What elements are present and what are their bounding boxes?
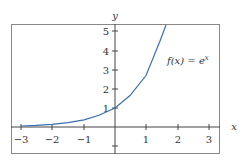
y-tick-label: 3 — [103, 65, 109, 76]
x-axis-label: x — [231, 121, 237, 132]
x-tick-label: −2 — [45, 134, 60, 145]
exponential-chart: −3 −2 −1 1 2 3 1 2 3 4 5 y x f(x) = ex — [0, 0, 241, 160]
function-label: f(x) = ex — [166, 54, 209, 66]
y-tick-label: 4 — [103, 46, 109, 57]
x-tick-label: 2 — [175, 134, 181, 145]
x-tick-label: −3 — [14, 134, 29, 145]
exp-curve — [21, 25, 166, 126]
y-axis-label: y — [111, 10, 118, 21]
y-tick-label: 2 — [103, 84, 109, 95]
y-tick-label: 5 — [103, 26, 109, 37]
x-tick-label: 1 — [143, 134, 149, 145]
x-tick-label: −1 — [77, 134, 92, 145]
x-tick-label: 3 — [206, 134, 212, 145]
